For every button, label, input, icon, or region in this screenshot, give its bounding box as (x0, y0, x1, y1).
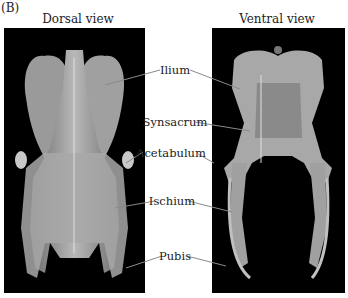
label-ilium: Ilium (160, 63, 190, 77)
ventral-view-photo (212, 28, 345, 293)
panel-label: (B) (1, 1, 19, 15)
label-ischium: Ischium (149, 194, 195, 208)
ventral-view-title: Ventral view (232, 12, 322, 26)
dorsal-view-title: Dorsal view (33, 12, 123, 26)
label-acetabulum: Acetabulum (136, 146, 206, 160)
dorsal-view-photo (4, 28, 145, 293)
label-synsacrum: Synsacrum (143, 115, 208, 129)
label-pubis: Pubis (159, 249, 191, 263)
